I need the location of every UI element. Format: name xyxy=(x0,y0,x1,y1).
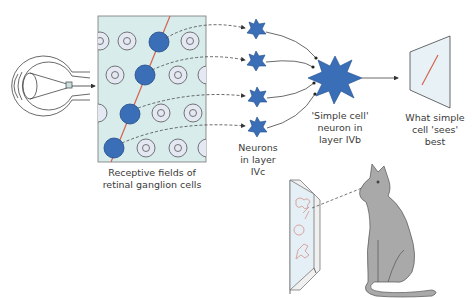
label-neurons-ivc: Neurons in layer IVc xyxy=(232,142,284,178)
simple-cell-neuron xyxy=(308,56,362,104)
stimulus-screen xyxy=(290,180,320,294)
oriented-bar-screen xyxy=(410,36,450,108)
label-simple-cell: 'Simple cell' neuron in layer IVb xyxy=(300,110,380,146)
receptive-field-panel xyxy=(89,16,216,162)
eye-icon xyxy=(12,56,95,116)
label-what-sees: What simple cell 'sees' best xyxy=(400,112,470,148)
layer-ivc-neurons xyxy=(247,19,267,137)
label-receptive-fields: Receptive fields of retinal ganglion cel… xyxy=(82,167,222,191)
cat-illustration xyxy=(360,164,436,297)
